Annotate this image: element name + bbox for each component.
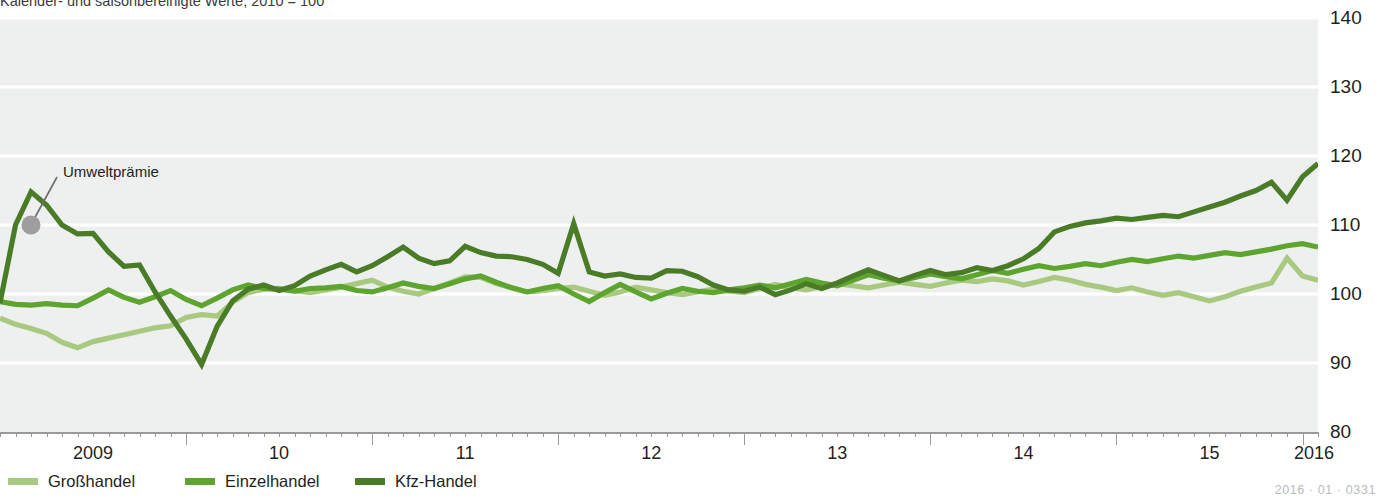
x-tick-minor — [62, 432, 63, 437]
x-tick-minor — [589, 432, 590, 437]
legend-item-einzelhandel[interactable]: Einzelhandel — [185, 472, 320, 491]
x-tick-minor — [1054, 432, 1055, 437]
x-tick-minor — [791, 432, 792, 437]
x-tick-minor — [140, 432, 141, 437]
x-tick-minor — [884, 432, 885, 437]
annotation-layer — [0, 18, 1318, 432]
legend-item-gro-handel[interactable]: Großhandel — [8, 472, 135, 491]
x-tick-minor — [388, 432, 389, 437]
legend-swatch-icon — [185, 478, 215, 485]
x-tick-minor — [1101, 432, 1102, 437]
x-tick-minor — [109, 432, 110, 437]
x-tick-minor — [651, 432, 652, 437]
x-tick-minor — [155, 432, 156, 437]
x-tick-minor — [620, 432, 621, 437]
x-tick-minor — [496, 432, 497, 437]
y-axis-label: 140 — [1330, 7, 1362, 29]
x-tick-minor — [775, 432, 776, 437]
x-tick-minor — [202, 432, 203, 437]
y-axis-label: 120 — [1330, 145, 1362, 167]
x-tick-minor — [1225, 432, 1226, 437]
chart-page: Kalender- und saisonbereinigte Werte, 20… — [0, 0, 1384, 501]
x-tick-minor — [1178, 432, 1179, 437]
x-tick-minor — [171, 432, 172, 437]
x-tick-minor — [837, 432, 838, 437]
legend-label: Kfz-Handel — [395, 472, 477, 491]
x-tick-minor — [1147, 432, 1148, 437]
x-tick-minor — [915, 432, 916, 437]
x-tick-minor — [605, 432, 606, 437]
x-tick-minor — [682, 432, 683, 437]
x-axis-label: 2016 — [1294, 443, 1334, 464]
x-tick-minor — [1256, 432, 1257, 437]
annotation-marker-dot — [22, 216, 41, 235]
x-tick-minor — [217, 432, 218, 437]
x-tick-minor — [233, 432, 234, 437]
x-tick-minor — [1240, 432, 1241, 437]
x-tick-minor — [31, 432, 32, 437]
x-tick-minor — [760, 432, 761, 437]
x-tick-major — [930, 432, 931, 445]
x-tick-minor — [992, 432, 993, 437]
legend-swatch-icon — [8, 478, 38, 485]
x-tick-minor — [279, 432, 280, 437]
x-tick-minor — [78, 432, 79, 437]
x-tick-minor — [698, 432, 699, 437]
x-tick-minor — [713, 432, 714, 437]
x-axis-label: 13 — [827, 443, 847, 464]
x-tick-minor — [1271, 432, 1272, 437]
x-tick-minor — [1085, 432, 1086, 437]
x-tick-minor — [574, 432, 575, 437]
x-tick-minor — [729, 432, 730, 437]
plot-area — [0, 18, 1318, 432]
x-tick-minor — [853, 432, 854, 437]
footer-code: 2016 · 01 · 0331 — [1275, 483, 1376, 497]
x-tick-minor — [977, 432, 978, 437]
x-tick-minor — [527, 432, 528, 437]
x-tick-minor — [512, 432, 513, 437]
x-axis-label: 2009 — [73, 443, 113, 464]
x-tick-minor — [341, 432, 342, 437]
x-tick-minor — [636, 432, 637, 437]
x-tick-minor — [326, 432, 327, 437]
x-tick-minor — [248, 432, 249, 437]
y-axis-label: 100 — [1330, 283, 1362, 305]
x-tick-minor — [357, 432, 358, 437]
x-tick-minor — [264, 432, 265, 437]
x-tick-minor — [1194, 432, 1195, 437]
x-tick-minor — [961, 432, 962, 437]
x-tick-minor — [434, 432, 435, 437]
x-axis-label: 10 — [269, 443, 289, 464]
x-tick-major — [744, 432, 745, 445]
x-tick-minor — [47, 432, 48, 437]
x-tick-minor — [1163, 432, 1164, 437]
x-tick-minor — [481, 432, 482, 437]
x-tick-minor — [543, 432, 544, 437]
x-tick-minor — [419, 432, 420, 437]
x-axis-label: 12 — [641, 443, 661, 464]
x-tick-minor — [403, 432, 404, 437]
y-axis-label: 80 — [1330, 421, 1351, 443]
x-tick-minor — [93, 432, 94, 437]
x-tick-minor — [16, 432, 17, 437]
legend-item-kfz-handel[interactable]: Kfz-Handel — [355, 472, 477, 491]
legend-label: Großhandel — [48, 472, 135, 491]
y-axis-label: 90 — [1330, 352, 1351, 374]
x-tick-minor — [0, 432, 1, 437]
x-tick-minor — [946, 432, 947, 437]
x-tick-minor — [1008, 432, 1009, 437]
x-tick-major — [1116, 432, 1117, 445]
legend-swatch-icon — [355, 478, 385, 485]
y-axis-label: 130 — [1330, 76, 1362, 98]
x-tick-minor — [1070, 432, 1071, 437]
x-tick-major — [558, 432, 559, 445]
x-tick-minor — [124, 432, 125, 437]
x-tick-minor — [465, 432, 466, 437]
x-tick-major — [186, 432, 187, 445]
x-tick-minor — [295, 432, 296, 437]
x-tick-minor — [1132, 432, 1133, 437]
x-tick-minor — [822, 432, 823, 437]
x-tick-minor — [1209, 432, 1210, 437]
x-tick-minor — [1023, 432, 1024, 437]
x-tick-minor — [450, 432, 451, 437]
